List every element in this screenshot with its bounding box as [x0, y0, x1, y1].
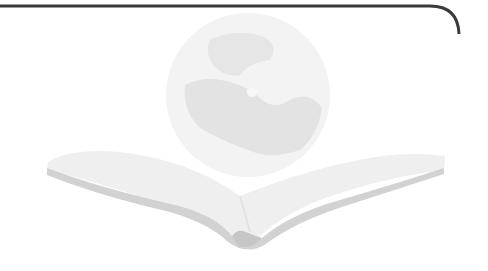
globe-icon — [166, 13, 330, 177]
